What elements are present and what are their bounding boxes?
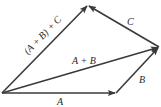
label-c: C — [127, 16, 134, 27]
vector-b-arrow — [116, 48, 158, 93]
label-a: A — [56, 96, 64, 107]
vector-addition-diagram: A B A + B C (A + B) + C — [0, 0, 161, 107]
label-a-plus-b: A + B — [71, 55, 96, 66]
label-b: B — [139, 74, 145, 85]
vector-c-arrow — [89, 6, 159, 47]
